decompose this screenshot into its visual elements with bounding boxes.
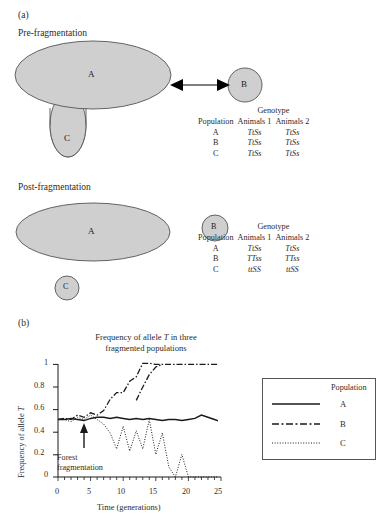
table-col-population: Population bbox=[196, 233, 235, 244]
pre-population-a-label: A bbox=[88, 69, 95, 79]
table-row: C TtSs TtSs bbox=[196, 149, 311, 160]
x-axis-label: Time (generations) bbox=[97, 503, 161, 512]
cell-animals-1: TtSs bbox=[235, 149, 273, 160]
legend-swatches bbox=[262, 378, 374, 458]
legend-label-B: B bbox=[340, 419, 346, 429]
table-col-animals-1: Animals 1 bbox=[235, 117, 273, 128]
y-tick-label-0-6: 0.6 bbox=[34, 403, 44, 412]
cell-animals-1: TtSs bbox=[235, 128, 273, 139]
cell-animals-2: TtSs bbox=[273, 149, 311, 160]
table-group-header-row: Genotype bbox=[196, 106, 311, 117]
x-tick-label-15: 15 bbox=[149, 487, 157, 496]
table-row: B TtSs TtSs bbox=[196, 138, 311, 149]
legend-label-C: C bbox=[340, 438, 346, 448]
post-population-c-label: C bbox=[63, 282, 68, 291]
table-header-row: Population Animals 1 Animals 2 bbox=[196, 117, 311, 128]
y-tick-label-0-4: 0.4 bbox=[34, 426, 44, 435]
cell-animals-1: ttSS bbox=[235, 265, 273, 276]
table-group-header-genotype: Genotype bbox=[235, 106, 311, 117]
cell-population: C bbox=[196, 149, 235, 160]
table-row: B TTss TTss bbox=[196, 254, 311, 265]
chart-title-line-2: fragmented populations bbox=[56, 343, 236, 354]
legend-label-A: A bbox=[340, 399, 346, 409]
population-diagram bbox=[0, 0, 380, 310]
annotation-line-1: Forest bbox=[57, 453, 103, 463]
cell-population: B bbox=[196, 138, 235, 149]
chart-title-text-1: Frequency of allele T in three bbox=[95, 332, 196, 342]
series-line-B bbox=[58, 363, 221, 419]
cell-population: A bbox=[196, 128, 235, 139]
chart-title: Frequency of allele T in three fragmente… bbox=[56, 332, 236, 354]
pre-population-c-label: C bbox=[64, 133, 70, 143]
table-group-header-row: Genotype bbox=[196, 222, 311, 233]
table-row: A TtSs TtSs bbox=[196, 244, 311, 255]
table-col-population: Population bbox=[196, 117, 235, 128]
table-header-row: Population Animals 1 Animals 2 bbox=[196, 233, 311, 244]
cell-population: C bbox=[196, 265, 235, 276]
cell-animals-1: TtSs bbox=[235, 244, 273, 255]
x-tick-label-20: 20 bbox=[182, 487, 190, 496]
cell-animals-1: TtSs bbox=[235, 138, 273, 149]
table-col-animals-1: Animals 1 bbox=[235, 233, 273, 244]
figure-root: (a) Pre-fragmentation Post-fragmentation… bbox=[0, 0, 380, 528]
cell-animals-2: TtSs bbox=[273, 128, 311, 139]
post-population-a-label: A bbox=[88, 226, 95, 236]
forest-fragmentation-arrow-head bbox=[80, 423, 88, 433]
cell-population: B bbox=[196, 254, 235, 265]
cell-animals-2: TtSs bbox=[273, 138, 311, 149]
cell-animals-2: TtSs bbox=[273, 244, 311, 255]
table-row: C ttSS ttSS bbox=[196, 265, 311, 276]
x-tick-label-10: 10 bbox=[117, 487, 125, 496]
cell-animals-2: TTss bbox=[273, 254, 311, 265]
table-group-header-genotype: Genotype bbox=[235, 222, 311, 233]
table-row: A TtSs TtSs bbox=[196, 128, 311, 139]
x-tick-label-25: 25 bbox=[214, 487, 222, 496]
pre-fragmentation-genotype-table: Genotype Population Animals 1 Animals 2 … bbox=[196, 106, 311, 160]
post-fragmentation-genotype-table: Genotype Population Animals 1 Animals 2 … bbox=[196, 222, 311, 276]
forest-fragmentation-annotation: Forest fragmentation bbox=[57, 453, 103, 473]
table-col-animals-2: Animals 2 bbox=[273, 233, 311, 244]
gene-flow-arrow-head-right bbox=[217, 79, 230, 91]
gene-flow-arrow-head-left bbox=[170, 79, 183, 91]
table-col-animals-2: Animals 2 bbox=[273, 117, 311, 128]
annotation-line-2: fragmentation bbox=[57, 463, 103, 473]
panel-b-label: (b) bbox=[18, 318, 29, 328]
cell-population: A bbox=[196, 244, 235, 255]
x-tick-label-5: 5 bbox=[87, 487, 91, 496]
table-group-header-blank bbox=[196, 222, 235, 233]
x-tick-label-0: 0 bbox=[55, 487, 59, 496]
y-tick-label-0-2: 0.2 bbox=[34, 448, 44, 457]
x-axis-minor-ticks bbox=[58, 477, 221, 481]
cell-animals-1: TTss bbox=[235, 254, 273, 265]
pre-population-b-label: B bbox=[241, 79, 247, 89]
y-tick-label-1: 1 bbox=[44, 358, 48, 367]
y-tick-label-0: 0 bbox=[44, 470, 48, 479]
chart-title-line-1: Frequency of allele T in three bbox=[56, 332, 236, 343]
y-tick-label-0-8: 0.8 bbox=[34, 381, 44, 390]
cell-animals-2: ttSS bbox=[273, 265, 311, 276]
table-group-header-blank bbox=[196, 106, 235, 117]
